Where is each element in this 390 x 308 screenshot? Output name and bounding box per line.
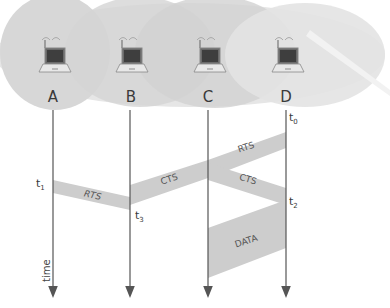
timelines <box>53 110 286 292</box>
time-markers: t0 t1 t2 t3 <box>36 111 298 224</box>
time-axis-label: time <box>41 259 52 282</box>
node-label-a: A <box>48 88 59 106</box>
message-bands <box>53 132 286 278</box>
node-label-c: C <box>203 88 213 106</box>
time-marker-t1: t1 <box>36 177 45 192</box>
node-label-d: D <box>280 88 292 106</box>
time-marker-t2: t2 <box>289 195 298 210</box>
coverage-area-d <box>225 3 385 107</box>
time-marker-t0: t0 <box>289 111 298 126</box>
node-label-b: B <box>126 88 136 106</box>
time-marker-t3: t3 <box>135 209 144 224</box>
rts-cts-diagram: A B C D RTS CTS CTS RTS DATA t0 t1 t2 t3… <box>0 0 390 308</box>
